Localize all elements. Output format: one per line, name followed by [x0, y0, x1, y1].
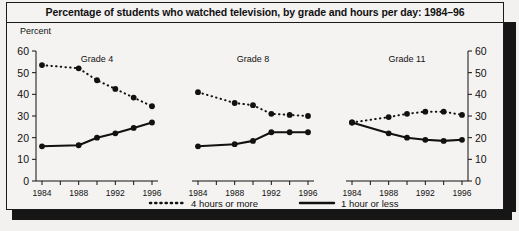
- data-point: [404, 111, 410, 117]
- chart-axes: 6050403020100605040302010019841988199219…: [17, 45, 487, 198]
- data-point: [250, 138, 256, 144]
- data-point: [76, 142, 82, 148]
- panel-label: Grade 8: [237, 54, 270, 64]
- data-point: [441, 109, 447, 115]
- svg-text:1984: 1984: [343, 188, 362, 198]
- data-point: [305, 129, 311, 135]
- legend-label: 1 hour or less: [341, 198, 399, 209]
- data-point: [195, 89, 201, 95]
- chart-plot-area: 6050403020100605040302010019841988199219…: [0, 0, 519, 231]
- svg-text:30: 30: [475, 110, 487, 122]
- data-point: [94, 77, 100, 83]
- data-point: [386, 114, 392, 120]
- svg-text:60: 60: [475, 45, 487, 57]
- series-line: [42, 65, 152, 106]
- svg-text:10: 10: [475, 153, 487, 165]
- data-point: [422, 109, 428, 115]
- svg-text:0: 0: [23, 175, 29, 187]
- svg-text:1996: 1996: [143, 188, 162, 198]
- svg-text:0: 0: [475, 175, 481, 187]
- data-point: [268, 129, 274, 135]
- svg-text:50: 50: [17, 67, 29, 79]
- data-point: [131, 95, 137, 101]
- svg-text:1996: 1996: [453, 188, 472, 198]
- data-point: [305, 113, 311, 119]
- data-point: [287, 129, 293, 135]
- data-point: [250, 102, 256, 108]
- data-point: [441, 138, 447, 144]
- svg-text:1984: 1984: [33, 188, 52, 198]
- panel-label: Grade 11: [389, 54, 426, 64]
- data-point: [195, 143, 201, 149]
- data-point: [386, 130, 392, 136]
- svg-text:50: 50: [475, 67, 487, 79]
- data-point: [39, 62, 45, 68]
- svg-text:1988: 1988: [379, 188, 398, 198]
- svg-text:1988: 1988: [225, 188, 244, 198]
- data-point: [149, 103, 155, 109]
- data-point: [459, 112, 465, 118]
- data-point: [349, 120, 355, 126]
- svg-text:60: 60: [17, 45, 29, 57]
- data-point: [149, 120, 155, 126]
- data-point: [404, 135, 410, 141]
- legend-label: 4 hours or more: [191, 198, 258, 209]
- data-point: [76, 65, 82, 71]
- svg-text:40: 40: [475, 88, 487, 100]
- svg-text:1984: 1984: [189, 188, 208, 198]
- data-point: [112, 130, 118, 136]
- svg-text:10: 10: [17, 153, 29, 165]
- data-point: [459, 137, 465, 143]
- chart-legend: 4 hours or more1 hour or less: [150, 198, 399, 209]
- svg-text:1996: 1996: [299, 188, 318, 198]
- chart-panel-labels: Grade 4Grade 8Grade 11: [81, 54, 426, 64]
- svg-text:40: 40: [17, 88, 29, 100]
- data-point: [268, 111, 274, 117]
- data-point: [112, 86, 118, 92]
- svg-text:1992: 1992: [106, 188, 125, 198]
- data-point: [131, 125, 137, 131]
- chart-figure: Percentage of students who watched telev…: [0, 0, 519, 231]
- svg-text:30: 30: [17, 110, 29, 122]
- svg-text:20: 20: [475, 132, 487, 144]
- panel-label: Grade 4: [81, 54, 114, 64]
- data-point: [422, 137, 428, 143]
- data-point: [39, 143, 45, 149]
- data-point: [232, 100, 238, 106]
- svg-text:20: 20: [17, 132, 29, 144]
- svg-text:1992: 1992: [262, 188, 281, 198]
- chart-series-layer: [39, 62, 465, 149]
- data-point: [287, 112, 293, 118]
- data-point: [94, 135, 100, 141]
- data-point: [232, 141, 238, 147]
- svg-text:1988: 1988: [69, 188, 88, 198]
- svg-text:1992: 1992: [416, 188, 435, 198]
